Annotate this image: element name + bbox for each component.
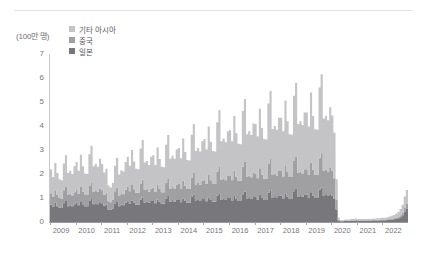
- x-tick-label: 2012: [129, 227, 146, 235]
- x-tick-label: 2013: [155, 227, 172, 235]
- x-tick-label: 2019: [308, 227, 325, 235]
- x-tick-mark: [50, 222, 51, 225]
- x-tick-mark: [229, 222, 230, 225]
- x-tick-label: 2020: [334, 227, 351, 235]
- x-tick-label: 2010: [78, 227, 95, 235]
- chart-figure: (100만 명) 기타 아시아 중국 일본 01234567 200920102…: [0, 0, 426, 256]
- x-tick-label: 2015: [206, 227, 223, 235]
- x-tick-mark: [382, 222, 383, 225]
- x-tick-mark: [127, 222, 128, 225]
- x-tick-mark: [76, 222, 77, 225]
- x-tick-mark: [255, 222, 256, 225]
- x-tick-label: 2018: [283, 227, 300, 235]
- x-tick-mark: [101, 222, 102, 225]
- x-tick-mark: [280, 222, 281, 225]
- x-tick-label: 2022: [385, 227, 402, 235]
- x-tick-mark: [357, 222, 358, 225]
- x-tick-label: 2009: [53, 227, 70, 235]
- x-tick-label: 2011: [104, 227, 120, 235]
- x-tick-mark: [331, 222, 332, 225]
- x-tick-label: 2016: [232, 227, 249, 235]
- x-tick-mark: [178, 222, 179, 225]
- x-axis-ticks: 2009201020112012201320142015201620172018…: [0, 0, 426, 256]
- x-tick-mark: [203, 222, 204, 225]
- x-tick-mark: [152, 222, 153, 225]
- x-tick-label: 2021: [360, 227, 377, 235]
- x-tick-mark: [306, 222, 307, 225]
- x-tick-label: 2014: [181, 227, 198, 235]
- x-tick-label: 2017: [257, 227, 274, 235]
